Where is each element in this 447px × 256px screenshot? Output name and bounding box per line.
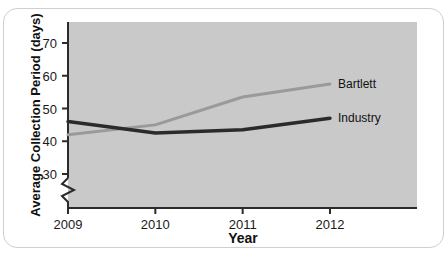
y-axis-title: Average Collection Period (days) (28, 13, 43, 216)
series-label-bartlett: Bartlett (338, 77, 377, 91)
y-tick-label: 40 (43, 134, 57, 149)
y-tick-label: 50 (43, 102, 57, 117)
x-axis-tick-labels: 2009201020112012 (54, 217, 345, 232)
x-tick-label: 2012 (316, 217, 345, 232)
y-axis-tick-labels: 3040506070 (43, 36, 57, 182)
x-axis-title: Year (228, 230, 258, 246)
figure-container: 3040506070 2009201020112012 BartlettIndu… (0, 0, 447, 256)
y-tick-label: 30 (43, 167, 57, 182)
series-label-industry: Industry (338, 111, 381, 125)
y-tick-label: 70 (43, 36, 57, 51)
line-chart: 3040506070 2009201020112012 BartlettIndu… (0, 0, 447, 256)
y-tick-label: 60 (43, 69, 57, 84)
x-tick-label: 2010 (141, 217, 170, 232)
x-tick-label: 2009 (54, 217, 83, 232)
